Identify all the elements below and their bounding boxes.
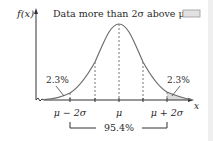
right-tail-percent: 2.3% [167, 75, 190, 85]
y-axis-arrow-icon [34, 8, 38, 14]
right-edge-strip [208, 0, 213, 141]
normal-distribution-chart: f(x) x Data more than 2σ above μ μ − 2σ … [0, 0, 213, 141]
tick-label-mu: μ [116, 107, 122, 118]
legend-swatch [183, 10, 200, 17]
tick-label-minus2sigma: μ − 2σ [54, 107, 87, 118]
tick-label-plus2sigma: μ + 2σ [151, 107, 184, 118]
bell-curve [44, 24, 192, 100]
right-tail-pointer [172, 86, 180, 96]
x-axis-label: x [194, 101, 199, 111]
legend-label: Data more than 2σ above μ [53, 8, 185, 19]
left-tail-percent: 2.3% [46, 75, 69, 85]
left-tail-pointer [56, 86, 64, 96]
y-axis-label: f(x) [16, 8, 34, 19]
chart-svg: f(x) x Data more than 2σ above μ μ − 2σ … [0, 0, 213, 141]
center-percent: 95.4% [104, 122, 134, 133]
